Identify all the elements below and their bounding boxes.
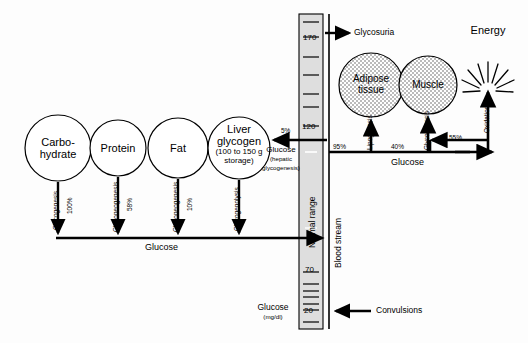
label-carbohydrate-line2: hydrate (26, 148, 90, 160)
label-percent-adipose: 95% (333, 143, 346, 150)
label-source-glucose: Glucose (145, 242, 178, 252)
label-percent-fat: 10% (186, 198, 193, 211)
label-protein: Protein (88, 142, 148, 154)
label-pathway-lipogenesis: Lipogenesis (366, 115, 373, 150)
label-pathway-gluconeogenesis-fat: Gluconeogenesis (172, 182, 179, 232)
label-percent-oxidation: 55% (449, 134, 462, 141)
label-muscle: Muscle (400, 79, 456, 90)
scale-tick-170: 170 (303, 33, 316, 42)
label-liver-line1: Liver (207, 124, 271, 136)
label-pathway-glycogenolysis: Glycogenolysis (233, 187, 240, 231)
label-pathway-glycogenesis: Glycogenesis (52, 191, 59, 230)
label-blood-glucose: Glucose (391, 157, 424, 167)
label-hepatic-line3: glycogenesis) (258, 163, 304, 172)
label-adipose-tissue: Adipose tissue (341, 73, 401, 95)
label-normal-range: Normal range (307, 197, 317, 249)
glucose-metabolism-diagram: Carbo- hydrate Protein Fat Liver glycoge… (0, 0, 528, 343)
label-adipose-line2: tissue (341, 84, 401, 95)
scale-tick-120: 120 (302, 122, 315, 131)
label-carbohydrate: Carbo- hydrate (26, 136, 90, 160)
label-glycosuria: Glycosuria (354, 27, 394, 37)
scale-tick-70: 70 (305, 265, 314, 274)
label-glucose-units: Glucose (mg/dl) (250, 302, 296, 322)
label-hepatic-percent: 5% (281, 127, 290, 134)
label-hepatic-line1: Glucose (258, 145, 304, 154)
label-hepatic-line2: (hepatic (258, 154, 304, 163)
label-percent-protein: 58% (126, 198, 133, 211)
label-blood-stream: Blood stream (333, 218, 343, 268)
energy-starburst (462, 62, 514, 92)
label-adipose-line1: Adipose (341, 73, 401, 84)
label-energy: Energy (458, 24, 518, 36)
label-convulsions: Convulsions (376, 305, 422, 315)
scale-tick-20: 20 (304, 306, 313, 315)
label-pathway-muscle-glycogenesis: Glycogenesis (423, 111, 430, 150)
label-hepatic-glucose: Glucose (hepatic glycogenesis) (258, 145, 304, 172)
label-pathway-oxidation: Oxidation (483, 106, 490, 133)
label-carbohydrate-line1: Carbo- (26, 136, 90, 148)
label-fat: Fat (148, 142, 208, 154)
label-units-main: Glucose (250, 302, 296, 312)
label-pathway-gluconeogenesis-protein: Gluconeogenesis (112, 182, 119, 232)
label-percent-muscle: 40% (391, 143, 404, 150)
label-units-sub: (mg/dl) (250, 312, 296, 322)
label-percent-carbohydrate: 100% (66, 197, 73, 214)
